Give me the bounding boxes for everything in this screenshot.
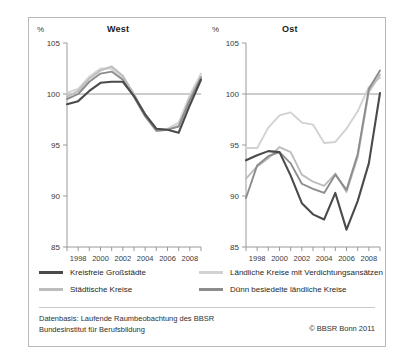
x-tick-label: 1998 bbox=[70, 254, 87, 263]
y-tick-label: 90 bbox=[230, 192, 239, 201]
x-tick-label: 2002 bbox=[293, 254, 310, 263]
x-tick-label: 2006 bbox=[338, 254, 355, 263]
legend-label-kreisfreie-grossstaedte: Kreisfreie Großstädte bbox=[70, 268, 146, 277]
legend-item-kreisfreie-grossstaedte: Kreisfreie Großstädte bbox=[39, 268, 146, 277]
y-tick-label: 105 bbox=[226, 39, 240, 48]
legend-swatch-staedtische-kreise bbox=[39, 288, 63, 291]
legend-swatch-kreisfreie-grossstaedte bbox=[39, 271, 63, 274]
chart-ost: 859095100105199820002002200420062008 bbox=[204, 33, 384, 263]
cropped-header-text bbox=[120, 0, 300, 9]
series-line bbox=[67, 80, 201, 133]
legend-label-staedtische-kreise: Städtische Kreise bbox=[70, 285, 132, 294]
x-tick-label: 2000 bbox=[92, 254, 109, 263]
y-tick-label: 105 bbox=[47, 39, 61, 48]
y-tick-label: 100 bbox=[226, 90, 240, 99]
source-note-line-1: Datenbasis: Laufende Raumbeobachtung des… bbox=[39, 313, 375, 324]
x-tick-label: 2004 bbox=[137, 254, 154, 263]
footer-divider bbox=[39, 307, 375, 308]
x-tick-label: 1998 bbox=[249, 254, 266, 263]
x-tick-label: 2008 bbox=[181, 254, 198, 263]
legend: Kreisfreie Großstädte Ländliche Kreise m… bbox=[39, 268, 379, 302]
copyright-note: © BBSR Bonn 2011 bbox=[309, 324, 375, 333]
legend-label-laendliche-kreise-verdichtung: Ländliche Kreise mit Verdichtungsansätze… bbox=[230, 268, 383, 277]
y-tick-label: 85 bbox=[230, 243, 239, 252]
legend-item-duenn-besiedelte-laendliche-kreise: Dünn besiedelte ländliche Kreise bbox=[199, 285, 347, 294]
x-tick-label: 2002 bbox=[114, 254, 131, 263]
series-line bbox=[246, 93, 380, 230]
figure-container: % West 859095100105199820002002200420062… bbox=[28, 17, 386, 347]
legend-swatch-laendliche-kreise-verdichtung bbox=[199, 271, 223, 274]
x-tick-label: 2008 bbox=[360, 254, 377, 263]
chart-west: 859095100105199820002002200420062008 bbox=[29, 33, 204, 263]
legend-label-duenn-besiedelte-laendliche-kreise: Dünn besiedelte ländliche Kreise bbox=[230, 285, 347, 294]
series-line bbox=[246, 71, 380, 198]
x-tick-label: 2006 bbox=[159, 254, 176, 263]
legend-item-staedtische-kreise: Städtische Kreise bbox=[39, 285, 132, 294]
legend-item-laendliche-kreise-verdichtung: Ländliche Kreise mit Verdichtungsansätze… bbox=[199, 268, 383, 277]
y-tick-label: 95 bbox=[230, 141, 239, 150]
y-tick-label: 100 bbox=[47, 90, 61, 99]
x-tick-label: 2000 bbox=[271, 254, 288, 263]
y-tick-label: 90 bbox=[51, 192, 60, 201]
y-tick-label: 85 bbox=[51, 243, 60, 252]
x-tick-label: 2004 bbox=[316, 254, 333, 263]
legend-swatch-duenn-besiedelte-laendliche-kreise bbox=[199, 288, 223, 291]
y-tick-label: 95 bbox=[51, 141, 60, 150]
